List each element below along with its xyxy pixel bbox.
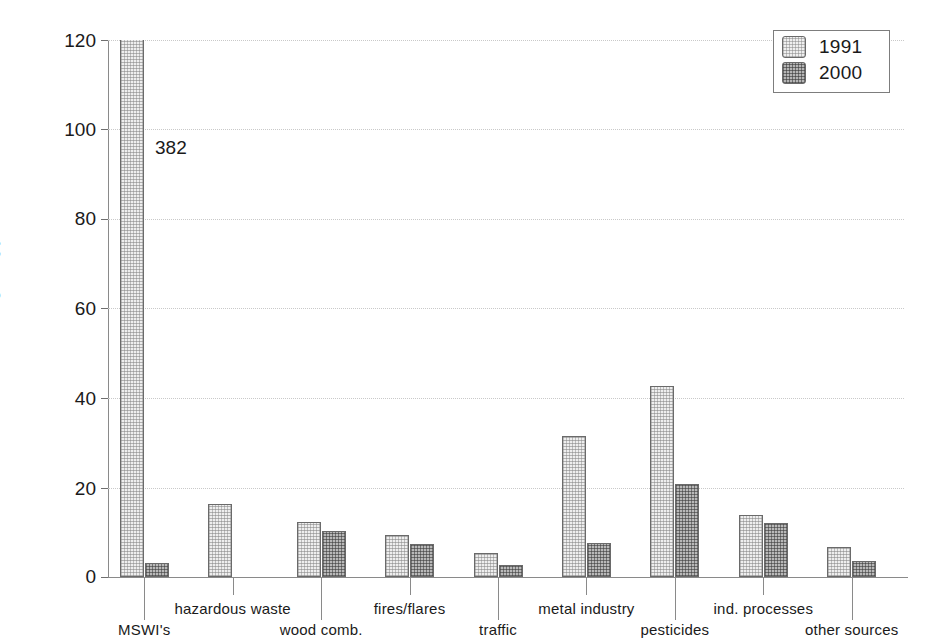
x-tick-mark [586, 577, 587, 595]
x-tick-mark [763, 577, 764, 595]
x-tick-mark [675, 577, 676, 620]
legend: 1991 2000 [773, 30, 890, 93]
x-tick-mark [498, 577, 499, 620]
bar-2000-woodcomb [322, 531, 346, 577]
legend-label-1991: 1991 [819, 36, 862, 58]
y-tick-mark-40 [101, 398, 108, 399]
plot-area: 382 [108, 40, 904, 577]
bar-2000-traffic [499, 565, 523, 577]
x-axis-label: hazardous waste [174, 600, 290, 617]
legend-entry-1991[interactable]: 1991 [782, 36, 862, 58]
gridline-80 [108, 219, 904, 220]
bar-1991-mswis [120, 40, 144, 577]
bar-1991-indprocesses [739, 515, 763, 577]
gridline-20 [108, 488, 904, 489]
bar-2000-indprocesses [764, 523, 788, 577]
y-tick-label-40: 40 [0, 388, 96, 410]
y-tick-label-120: 120 [0, 30, 96, 52]
y-tick-mark-20 [101, 488, 108, 489]
bar-chart: g TEQ/year 120 100 80 60 40 20 0 [0, 0, 929, 644]
x-tick-mark [233, 577, 234, 595]
bar-1991-traffic [474, 553, 498, 577]
bar-1991-pesticides [650, 386, 674, 577]
bar-2000-firesflares [410, 544, 434, 577]
y-tick-mark-0 [101, 577, 108, 578]
x-axis-label: MSWI's [118, 621, 170, 638]
x-tick-mark [321, 577, 322, 620]
gridline-40 [108, 398, 904, 399]
y-tick-mark-60 [101, 308, 108, 309]
y-tick-mark-80 [101, 219, 108, 220]
bar-2000-metalindustry [587, 543, 611, 577]
x-axis-line [108, 577, 908, 578]
x-axis-label: traffic [479, 621, 517, 638]
x-axis-label: metal industry [538, 600, 634, 617]
bar-2000-pesticides [675, 484, 699, 577]
y-tick-mark-100 [101, 129, 108, 130]
legend-label-2000: 2000 [819, 62, 862, 84]
legend-swatch-1991 [782, 36, 806, 58]
bar-1991-hazardouswaste [208, 504, 232, 577]
y-tick-label-80: 80 [0, 208, 96, 230]
y-tick-label-60: 60 [0, 298, 96, 320]
x-axis-label: wood comb. [280, 621, 363, 638]
y-tick-mark-120 [101, 40, 108, 41]
y-tick-label-100: 100 [0, 119, 96, 141]
legend-swatch-2000 [782, 62, 806, 84]
bar-1991-woodcomb [297, 522, 321, 577]
y-tick-label-20: 20 [0, 478, 96, 500]
bar-1991-othersources [827, 547, 851, 577]
bar-2000-mswis [145, 563, 169, 577]
x-axis-label: ind. processes [714, 600, 814, 617]
x-tick-mark [144, 577, 145, 620]
bar-1991-firesflares [385, 535, 409, 577]
gridline-60 [108, 308, 904, 309]
y-tick-label-0: 0 [0, 566, 96, 588]
x-tick-mark [852, 577, 853, 620]
x-axis-label: pesticides [641, 621, 710, 638]
x-tick-mark [410, 577, 411, 595]
value-annotation-382: 382 [155, 137, 187, 159]
x-axis-label: other sources [805, 621, 898, 638]
bar-1991-metalindustry [562, 436, 586, 577]
gridline-100 [108, 129, 904, 130]
x-axis-label: fires/flares [374, 600, 446, 617]
legend-entry-2000[interactable]: 2000 [782, 62, 862, 84]
bar-2000-othersources [852, 561, 876, 577]
